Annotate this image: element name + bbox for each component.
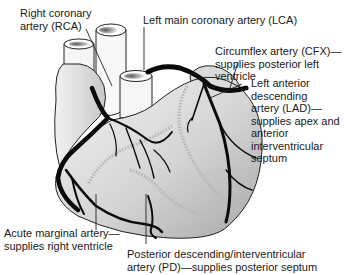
label-rca: Right coronary artery (RCA) [20,7,92,32]
label-lca: Left main coronary artery (LCA) [143,14,297,27]
label-lad: Left anterior descending artery (LAD)— s… [251,77,340,165]
label-acute-marginal: Acute marginal artery— supplies right ve… [4,227,120,252]
label-pd: Posterior descending/interventricular ar… [127,248,317,273]
